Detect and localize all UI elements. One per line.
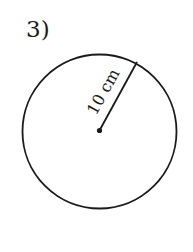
circle-diagram: 10 cm — [0, 0, 193, 252]
center-point — [97, 128, 102, 133]
radius-label: 10 cm — [83, 65, 124, 118]
